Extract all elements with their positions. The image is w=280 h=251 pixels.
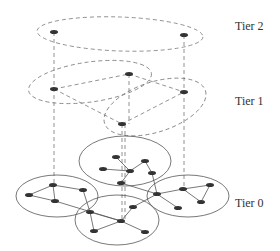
tier-1-edge bbox=[54, 89, 122, 124]
tier-0-edge bbox=[90, 212, 94, 231]
tier-0-edge bbox=[183, 189, 201, 202]
tier-1-edge bbox=[54, 74, 129, 89]
tier-0-edge bbox=[121, 207, 133, 221]
tier-0-node bbox=[179, 187, 187, 191]
tier-0-node bbox=[206, 183, 214, 187]
tier-0-edge bbox=[201, 185, 210, 202]
tier-0-edge bbox=[94, 221, 121, 231]
tier-0-edge bbox=[29, 185, 53, 195]
tier-0-node bbox=[90, 229, 98, 233]
tier-0-edge bbox=[121, 221, 145, 232]
hierarchical-network-diagram bbox=[0, 0, 280, 251]
tier-0-node bbox=[197, 200, 205, 204]
tier-1-edge bbox=[122, 92, 184, 124]
tier-1-node bbox=[50, 87, 58, 91]
tier-1-label: Tier 1 bbox=[235, 94, 264, 109]
tier-2-node bbox=[180, 33, 188, 37]
tier-0-edge bbox=[152, 173, 157, 194]
tier-0-node bbox=[141, 230, 149, 234]
tier-0-node bbox=[86, 210, 94, 214]
tier-0-node bbox=[79, 188, 87, 192]
tier-0-node bbox=[117, 219, 125, 223]
tier-0-node bbox=[99, 167, 107, 171]
tier-2-label: Tier 2 bbox=[235, 19, 264, 34]
tier-edges bbox=[29, 74, 210, 232]
tier-2-node bbox=[50, 30, 58, 34]
tier-0-node bbox=[129, 205, 137, 209]
tier-0-node bbox=[174, 206, 182, 210]
tier-2-cluster bbox=[36, 14, 203, 54]
tier-0-edge bbox=[116, 157, 130, 171]
tier-0-node bbox=[49, 183, 57, 187]
tier-0-node bbox=[112, 155, 120, 159]
tier-clusters bbox=[16, 14, 229, 245]
tier-0-edge bbox=[53, 185, 83, 190]
tier-0-label: Tier 0 bbox=[235, 196, 264, 211]
tier-1-node bbox=[118, 122, 126, 126]
tier-0-node bbox=[126, 169, 134, 173]
tier-0-edge bbox=[53, 185, 55, 201]
tier-1-node bbox=[125, 72, 133, 76]
tier-0-node bbox=[51, 199, 59, 203]
tier-0-node bbox=[117, 181, 125, 185]
tier-1-node bbox=[180, 90, 188, 94]
tier-0-node bbox=[25, 193, 33, 197]
tier-0-node bbox=[148, 171, 156, 175]
tier-0-node bbox=[153, 192, 161, 196]
tier-0-edge bbox=[157, 194, 178, 208]
tier-0-edge bbox=[29, 195, 55, 201]
tier-0-node bbox=[141, 159, 149, 163]
tier-0-edge bbox=[157, 189, 183, 194]
tier-0-edge bbox=[103, 169, 130, 171]
tier-0-edge bbox=[133, 194, 157, 207]
tier-0-edge bbox=[183, 185, 210, 189]
